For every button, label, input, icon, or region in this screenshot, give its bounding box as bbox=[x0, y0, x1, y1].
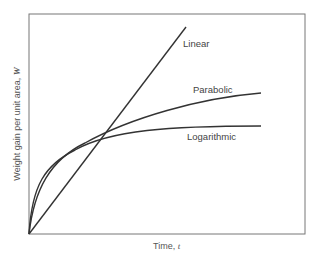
linear-label: Linear bbox=[183, 38, 209, 49]
logarithmic-label: Logarithmic bbox=[187, 131, 236, 142]
plot-frame bbox=[29, 14, 305, 234]
x-axis-label: Time, t bbox=[153, 241, 181, 251]
parabolic-curve bbox=[29, 93, 261, 234]
y-axis-label: Weight gain per unit area, W bbox=[12, 66, 22, 180]
logarithmic-curve bbox=[29, 126, 261, 234]
oxidation-kinetics-chart: Linear Parabolic Logarithmic Time, t Wei… bbox=[0, 0, 317, 255]
parabolic-label: Parabolic bbox=[193, 84, 233, 95]
linear-curve bbox=[29, 27, 186, 234]
